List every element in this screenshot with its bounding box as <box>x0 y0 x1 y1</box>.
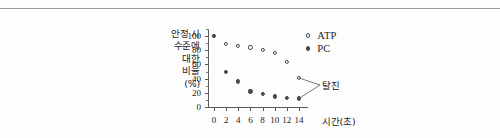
y-axis-tick-label: 60 <box>192 59 201 69</box>
chart-figure: 안정 시 수준에 대한 비율 (%) 020406080100024681012… <box>0 9 500 138</box>
x-axis-tick <box>263 107 264 111</box>
legend-label-pc: PC <box>317 43 330 54</box>
y-axis-line <box>208 29 209 107</box>
y-axis-tick: 100 <box>205 36 209 37</box>
x-axis-tick <box>250 107 251 111</box>
x-axis-tick <box>226 107 227 111</box>
x-axis-tick-label: 0 <box>212 115 217 125</box>
data-point-atp <box>285 60 289 64</box>
data-point-atp <box>236 44 240 48</box>
x-axis-label: 시간(초) <box>322 114 355 128</box>
y-axis-tick: 80 <box>205 50 209 51</box>
y-axis-tick: 0 <box>205 107 209 108</box>
x-axis-tick <box>275 107 276 111</box>
data-point-atp <box>297 76 301 80</box>
y-axis-minor-tick <box>206 57 209 58</box>
chart-legend: ATP PC <box>306 29 337 55</box>
x-axis-tick <box>214 107 215 111</box>
x-axis-line <box>208 107 308 108</box>
y-axis-minor-tick <box>206 43 209 44</box>
data-point-atp <box>273 51 277 55</box>
y-axis-tick: 20 <box>205 93 209 94</box>
data-point-pc <box>273 94 277 98</box>
legend-item-pc: PC <box>306 42 337 55</box>
data-point-pc <box>297 96 301 100</box>
y-axis-tick-label: 20 <box>192 88 201 98</box>
x-axis-tick <box>238 107 239 111</box>
data-point-atp <box>248 45 252 49</box>
x-axis-tick-label: 8 <box>260 115 265 125</box>
data-point-pc <box>212 34 216 38</box>
plot-area: 02040608010002468101214 <box>208 29 308 107</box>
data-point-atp <box>260 47 264 51</box>
y-axis-minor-tick <box>206 86 209 87</box>
data-point-pc <box>248 89 252 93</box>
filled-circle-icon <box>306 46 310 50</box>
y-axis-minor-tick <box>206 29 209 30</box>
y-axis-tick: 60 <box>205 64 209 65</box>
data-point-pc <box>260 92 264 96</box>
x-axis-tick-label: 4 <box>236 115 241 125</box>
annotation-label: 탈진 <box>322 78 340 92</box>
data-point-pc <box>224 69 228 73</box>
legend-label-atp: ATP <box>317 30 337 41</box>
x-axis-tick-label: 6 <box>248 115 253 125</box>
x-axis-tick <box>299 107 300 111</box>
x-axis-tick <box>287 107 288 111</box>
data-point-atp <box>224 42 228 46</box>
y-axis-tick-label: 0 <box>197 102 202 112</box>
x-axis-tick-label: 2 <box>224 115 229 125</box>
y-axis-tick: 40 <box>205 79 209 80</box>
legend-item-atp: ATP <box>306 29 337 42</box>
data-point-pc <box>236 79 240 83</box>
y-axis-tick-label: 40 <box>192 74 201 84</box>
x-axis-tick-label: 10 <box>270 115 279 125</box>
y-axis-minor-tick <box>206 100 209 101</box>
figure-page: 안정 시 수준에 대한 비율 (%) 020406080100024681012… <box>0 0 500 138</box>
y-axis-tick-label: 80 <box>192 45 201 55</box>
y-axis-tick-label: 100 <box>188 31 202 41</box>
x-axis-tick-label: 14 <box>294 115 303 125</box>
x-axis-tick-label: 12 <box>282 115 291 125</box>
open-circle-icon <box>306 33 310 37</box>
data-point-pc <box>285 96 289 100</box>
y-axis-minor-tick <box>206 72 209 73</box>
